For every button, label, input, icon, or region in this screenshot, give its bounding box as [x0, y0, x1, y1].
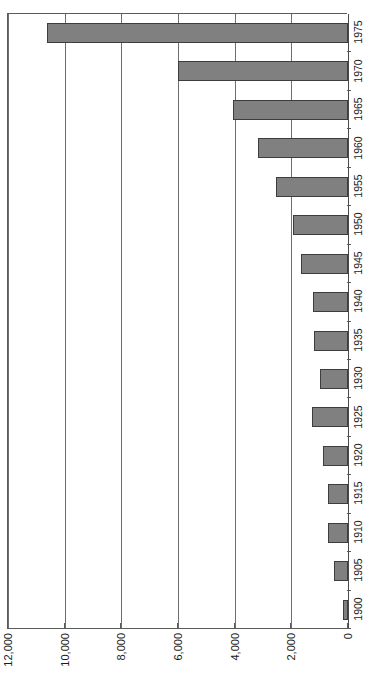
category-label-1915: 1915: [351, 474, 365, 512]
bar-1910[interactable]: [328, 523, 348, 543]
bar-1975[interactable]: [47, 23, 348, 43]
category-label-1910: 1910: [351, 513, 365, 551]
category-label-1920: 1920: [351, 436, 365, 474]
value-tick-0: [347, 623, 348, 628]
bar-slot: [8, 475, 347, 513]
bar-1960[interactable]: [258, 138, 348, 158]
value-label-0: 0: [341, 633, 355, 681]
category-label-1930: 1930: [351, 359, 365, 397]
category-label-1975: 1975: [351, 13, 365, 51]
category-label-1950: 1950: [351, 205, 365, 243]
value-label-2000: 2,000: [284, 633, 298, 681]
bar-1925[interactable]: [312, 407, 348, 427]
value-label-6000: 6,000: [171, 633, 185, 681]
category-label-1925: 1925: [351, 398, 365, 436]
bar-slot: [8, 52, 347, 90]
bar-slot: [8, 437, 347, 475]
bar-slot: [8, 14, 347, 52]
value-tick-2000: [290, 623, 291, 628]
value-tick-10000: [64, 623, 65, 628]
category-label-1970: 1970: [351, 52, 365, 90]
bar-slot: [8, 129, 347, 167]
bar-slot: [8, 360, 347, 398]
value-axis: 12,00010,0008,0006,0004,0002,0000: [7, 628, 347, 685]
value-label-10000: 10,000: [58, 633, 72, 681]
value-axis-line: [7, 628, 347, 629]
category-label-1960: 1960: [351, 129, 365, 167]
value-label-12000: 12,000: [1, 633, 15, 681]
bar-slot: [8, 245, 347, 283]
plot-area: [7, 13, 347, 628]
bar-1940[interactable]: [313, 292, 348, 312]
bar-slot: [8, 206, 347, 244]
bar-1935[interactable]: [314, 331, 348, 351]
bar-slot: [8, 168, 347, 206]
bar-chart: 1975197019651960195519501945194019351930…: [0, 0, 367, 685]
value-label-4000: 4,000: [228, 633, 242, 681]
category-label-1940: 1940: [351, 282, 365, 320]
category-label-1955: 1955: [351, 167, 365, 205]
category-label-1935: 1935: [351, 321, 365, 359]
category-label-1900: 1900: [351, 590, 365, 628]
bar-1950[interactable]: [293, 215, 348, 235]
bar-slot: [8, 91, 347, 129]
bar-1930[interactable]: [320, 369, 348, 389]
bar-1965[interactable]: [233, 100, 348, 120]
bar-1955[interactable]: [276, 177, 348, 197]
category-tick: [347, 628, 351, 629]
bar-slot: [8, 552, 347, 590]
value-label-8000: 8,000: [114, 633, 128, 681]
value-tick-12000: [7, 623, 8, 628]
bar-slot: [8, 283, 347, 321]
bar-1970[interactable]: [178, 61, 348, 81]
bar-1920[interactable]: [323, 446, 348, 466]
bar-1945[interactable]: [301, 254, 348, 274]
bar-1915[interactable]: [328, 484, 348, 504]
category-label-1965: 1965: [351, 90, 365, 128]
value-tick-4000: [234, 623, 235, 628]
category-axis: 1975197019651960195519501945194019351930…: [347, 13, 367, 628]
value-tick-8000: [120, 623, 121, 628]
category-label-1905: 1905: [351, 551, 365, 589]
value-tick-6000: [177, 623, 178, 628]
bar-slot: [8, 514, 347, 552]
bar-1905[interactable]: [334, 561, 348, 581]
category-label-1945: 1945: [351, 244, 365, 282]
bar-slot: [8, 322, 347, 360]
bar-slot: [8, 398, 347, 436]
